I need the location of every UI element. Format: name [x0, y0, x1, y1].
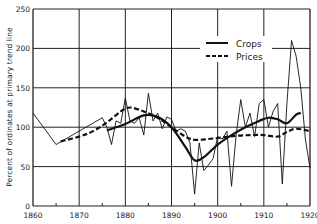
x-tick-label: 1860 [23, 211, 42, 220]
x-tick-label: 1900 [208, 211, 227, 220]
y-tick-label: 100 [16, 123, 31, 132]
legend: Crops Prices [200, 36, 272, 62]
legend-prices-label: Prices [236, 52, 263, 62]
y-tick-label: 250 [16, 5, 31, 14]
legend-crops-label: Crops [236, 39, 262, 49]
x-tick-label: 1880 [116, 211, 135, 220]
y-tick-label: 200 [16, 44, 31, 53]
y-tick-label: 150 [16, 84, 31, 93]
y-tick-label: 50 [20, 163, 30, 172]
x-tick-label: 1910 [254, 211, 273, 220]
x-tick-label: 1890 [162, 211, 181, 220]
x-tick-label: 1920 [300, 211, 317, 220]
line-chart: 0501001502002501860187018801890190019101… [0, 0, 317, 224]
y-axis-label: Percent of ordinates at primary trend li… [5, 27, 15, 187]
y-tick-label: 0 [25, 202, 30, 211]
x-tick-label: 1870 [70, 211, 89, 220]
